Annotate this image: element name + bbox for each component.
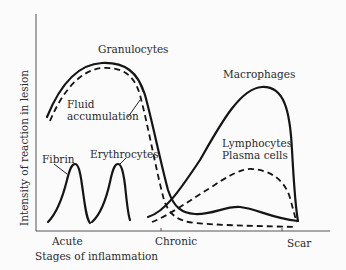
- label-erythrocytes: Erythrocytes: [90, 148, 159, 160]
- label-plasma-cells: Plasma cells: [222, 149, 288, 161]
- erythrocytes-curve: [92, 164, 130, 222]
- fibrin-leader: [54, 164, 67, 174]
- inflammation-diagram: Granulocytes Fluid accumulation Fibrin E…: [0, 0, 346, 270]
- diagram-canvas: Granulocytes Fluid accumulation Fibrin E…: [0, 0, 346, 270]
- label-granulocytes: Granulocytes: [98, 43, 169, 55]
- tick-label-chronic: Chronic: [155, 235, 197, 247]
- label-macrophages: Macrophages: [223, 68, 295, 80]
- tick-label-acute: Acute: [51, 235, 83, 247]
- tick-label-scar: Scar: [287, 237, 312, 249]
- fibrin-curve: [48, 164, 90, 223]
- label-accumulation: accumulation: [67, 110, 139, 122]
- label-fluid: Fluid: [67, 98, 95, 110]
- x-axis-title: Stages of inflammation: [35, 250, 158, 262]
- label-lymphocytes: Lymphocytes: [222, 137, 292, 149]
- label-fibrin: Fibrin: [42, 153, 75, 165]
- y-axis-title: Intensity of reaction in lesion: [18, 70, 30, 226]
